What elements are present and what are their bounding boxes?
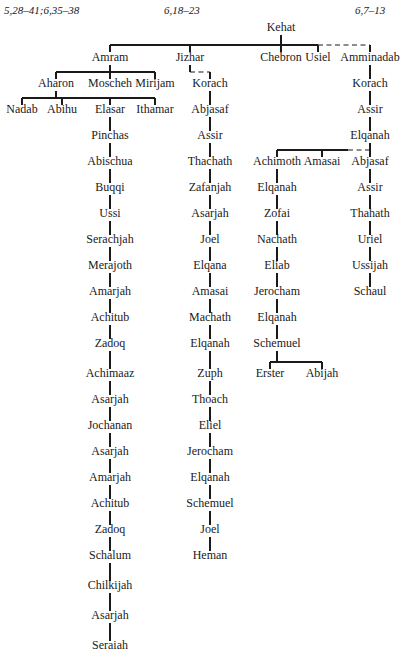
person-node-elqanah_r2: Elqanah [257, 310, 296, 324]
person-node-aharon: Aharon [38, 76, 74, 90]
person-node-jizhar: Jizhar [176, 50, 205, 64]
person-node-abjasaf_r: Abjasaf [351, 154, 388, 168]
person-node-achimaaz: Achimaaz [86, 366, 135, 380]
person-node-jerocham_m: Jerocham [187, 444, 234, 458]
person-node-elqanah_r1: Elqanah [257, 180, 296, 194]
person-node-uriel: Uriel [358, 232, 383, 246]
column-reference-header: 5,28–41;6,35–38 [4, 4, 80, 16]
person-node-achitub_l1: Achitub [91, 310, 130, 324]
person-node-nachath: Nachath [257, 232, 297, 246]
person-node-assir_j: Assir [197, 128, 222, 142]
person-node-amarjah_l2: Amarjah [89, 470, 131, 484]
person-node-thoach: Thoach [192, 392, 228, 406]
person-node-assir_r: Assir [357, 180, 382, 194]
person-node-elasar: Elasar [95, 102, 125, 116]
person-node-abijah: Abijah [306, 366, 339, 380]
person-node-heman: Heman [193, 548, 228, 562]
person-node-assir_a: Assir [357, 102, 382, 116]
person-node-amram: Amram [92, 50, 129, 64]
person-node-thahath: Thahath [350, 206, 389, 220]
person-node-amminadab: Amminadab [340, 50, 399, 64]
person-node-abischua: Abischua [87, 154, 133, 168]
person-node-abjasaf_j: Abjasaf [191, 102, 228, 116]
person-node-jochanan: Jochanan [88, 418, 133, 432]
person-node-elqanah_m1: Elqanah [190, 336, 229, 350]
person-node-moscheh: Moscheh [88, 76, 132, 90]
person-node-ussi: Ussi [99, 206, 121, 220]
header-layer: 5,28–41;6,35–386,18–236,7–13 [4, 4, 386, 16]
person-node-korach_j: Korach [192, 76, 227, 90]
person-node-amarjah_l1: Amarjah [89, 284, 131, 298]
person-node-jerocham_r: Jerocham [254, 284, 301, 298]
person-node-machath: Machath [189, 310, 231, 324]
person-node-schemuel_m: Schemuel [186, 496, 234, 510]
person-node-seraiah: Seraiah [92, 638, 128, 652]
node-layer: KehatAmramJizharChebronUsielAmminadabAha… [6, 20, 399, 652]
person-node-kehat: Kehat [267, 20, 296, 34]
person-node-asarjah_l1: Asarjah [91, 392, 128, 406]
person-node-schemuel_r: Schemuel [253, 336, 301, 350]
person-node-schalum: Schalum [89, 548, 132, 562]
person-node-zadoq_l2: Zadoq [95, 522, 126, 536]
person-node-ussijah: Ussijah [352, 258, 388, 272]
person-node-achimoth: Achimoth [253, 154, 301, 168]
person-node-mirijam: Mirijam [135, 76, 175, 90]
person-node-amasai_m: Amasai [192, 284, 229, 298]
person-node-asarjah_m1: Asarjah [191, 206, 228, 220]
person-node-elqanah_a: Elqanah [350, 128, 389, 142]
person-node-ithamar: Ithamar [136, 102, 173, 116]
person-node-chilkijah: Chilkijah [88, 578, 133, 592]
person-node-amasai_r: Amasai [304, 154, 341, 168]
person-node-thachath: Thachath [188, 154, 233, 168]
genealogy-chart: KehatAmramJizharChebronUsielAmminadabAha… [0, 0, 404, 654]
column-reference-header: 6,7–13 [355, 4, 386, 16]
genealogy-svg: KehatAmramJizharChebronUsielAmminadabAha… [0, 0, 404, 654]
person-node-elqanah_m2: Elqanah [190, 470, 229, 484]
person-node-nadab: Nadab [6, 102, 37, 116]
person-node-erster: Erster [256, 366, 285, 380]
person-node-serachjah: Serachjah [86, 232, 133, 246]
person-node-pinchas: Pinchas [91, 128, 129, 142]
person-node-joel_m: Joel [200, 232, 220, 246]
person-node-zuph: Zuph [197, 366, 222, 380]
person-node-asarjah_l3: Asarjah [91, 608, 128, 622]
person-node-zadoq_l1: Zadoq [95, 336, 126, 350]
person-node-abihu: Abihu [47, 102, 77, 116]
person-node-asarjah_l2: Asarjah [91, 444, 128, 458]
person-node-usiel: Usiel [305, 50, 331, 64]
person-node-eliab: Eliab [264, 258, 289, 272]
person-node-eliel: Eliel [199, 418, 222, 432]
person-node-korach_a: Korach [352, 76, 387, 90]
person-node-joel_m2: Joel [200, 522, 220, 536]
person-node-chebron: Chebron [260, 50, 301, 64]
person-node-elqana_m: Elqana [193, 258, 227, 272]
person-node-buqqi: Buqqi [95, 180, 125, 194]
person-node-schaul: Schaul [354, 284, 387, 298]
person-node-achitub_l2: Achitub [91, 496, 130, 510]
person-node-zafanjah: Zafanjah [189, 180, 232, 194]
person-node-merajoth: Merajoth [88, 258, 132, 272]
column-reference-header: 6,18–23 [164, 4, 200, 16]
person-node-zofai: Zofai [264, 206, 291, 220]
